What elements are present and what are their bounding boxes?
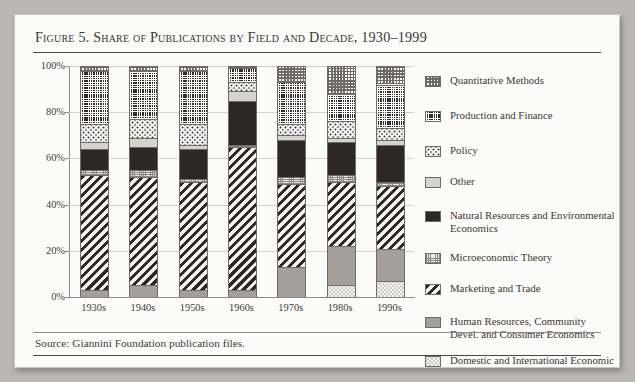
bar-segment[interactable] (278, 184, 305, 267)
bar-segment[interactable] (229, 101, 256, 145)
bar-segment[interactable] (130, 119, 157, 137)
bar-segment[interactable] (81, 170, 108, 175)
plot-region (69, 66, 414, 297)
bar-segment[interactable] (130, 138, 157, 147)
bar-1930s[interactable] (80, 66, 109, 297)
bar-segment[interactable] (130, 285, 157, 297)
bar-segment[interactable] (328, 285, 355, 297)
bar-segment[interactable] (81, 149, 108, 170)
y-axis-tick-mark (65, 158, 69, 159)
legend-label: Production and Finance (450, 109, 553, 122)
bar-segment[interactable] (328, 142, 355, 174)
bar-segment[interactable] (328, 94, 355, 122)
page-background: Figure 5. Share of Publications by Field… (0, 0, 635, 382)
legend-swatch-icon (425, 317, 441, 328)
bar-segment[interactable] (130, 147, 157, 170)
bar-segment[interactable] (81, 290, 108, 297)
bar-segment[interactable] (278, 82, 305, 124)
bar-segment[interactable] (180, 290, 207, 297)
bar-segment[interactable] (229, 68, 256, 82)
bar-segment[interactable] (229, 91, 256, 100)
bar-1950s[interactable] (179, 66, 208, 297)
bar-segment[interactable] (81, 142, 108, 149)
bar-segment[interactable] (81, 71, 108, 124)
bar-segment[interactable] (328, 175, 355, 182)
legend-item[interactable]: Production and Finance (425, 109, 615, 122)
bar-segment[interactable] (81, 175, 108, 291)
legend-item[interactable]: Other (425, 175, 615, 188)
source-divider (33, 332, 601, 333)
y-axis-tick-mark (65, 251, 69, 252)
bar-segment[interactable] (180, 66, 207, 71)
legend-label: Human Resources, Community Devel. and Co… (450, 315, 615, 340)
bar-1990s[interactable] (376, 66, 405, 297)
bar-segment[interactable] (328, 246, 355, 285)
legend-item[interactable]: Domestic and International Economic Deve… (425, 354, 615, 368)
y-axis-tick-label: 80% (19, 106, 65, 117)
y-axis-tick-label: 100% (19, 60, 65, 71)
bar-segment[interactable] (229, 145, 256, 147)
bar-segment[interactable] (377, 128, 404, 140)
bar-segment[interactable] (81, 66, 108, 71)
bar-segment[interactable] (180, 179, 207, 181)
bar-segment[interactable] (180, 71, 207, 124)
bar-segment[interactable] (229, 66, 256, 68)
bar-segment[interactable] (278, 267, 305, 297)
bar-segment[interactable] (278, 140, 305, 177)
bar-1980s[interactable] (327, 66, 356, 297)
legend-swatch-icon (425, 76, 441, 87)
bar-segment[interactable] (229, 147, 256, 290)
source-note: Source: Giannini Foundation publication … (35, 337, 245, 349)
legend-item[interactable]: Human Resources, Community Devel. and Co… (425, 315, 615, 340)
bar-segment[interactable] (130, 170, 157, 177)
bar-segment[interactable] (278, 177, 305, 184)
y-axis-tick-label: 0% (19, 291, 65, 302)
bar-segment[interactable] (278, 66, 305, 82)
bar-segment[interactable] (229, 290, 256, 297)
bar-segment[interactable] (278, 124, 305, 136)
bar-segment[interactable] (377, 145, 404, 182)
bar-segment[interactable] (130, 71, 157, 120)
legend-item[interactable]: Marketing and Trade (425, 282, 615, 295)
bar-segment[interactable] (278, 135, 305, 140)
bar-segment[interactable] (328, 121, 355, 137)
bar-segment[interactable] (377, 249, 404, 281)
bar-segment[interactable] (180, 145, 207, 150)
bar-segment[interactable] (130, 66, 157, 71)
y-axis-tick-mark (65, 205, 69, 206)
legend-label: Policy (450, 144, 478, 157)
bar-1960s[interactable] (228, 66, 257, 297)
y-axis-tick-label: 20% (19, 245, 65, 256)
legend-label: Microeconomic Theory (450, 251, 552, 264)
bar-segment[interactable] (377, 66, 404, 84)
legend-swatch-icon (425, 356, 441, 367)
legend-item[interactable]: Natural Resources and Environmental Econ… (425, 209, 615, 234)
bottom-divider (33, 355, 601, 356)
legend-item[interactable]: Microeconomic Theory (425, 251, 615, 264)
legend-label: Quantitative Methods (450, 74, 544, 87)
bar-1970s[interactable] (277, 66, 306, 297)
bar-segment[interactable] (377, 186, 404, 248)
bar-segment[interactable] (377, 182, 404, 187)
bar-segment[interactable] (229, 82, 256, 91)
x-axis-tick-label: 1940s (118, 302, 168, 313)
bar-segment[interactable] (180, 124, 207, 145)
legend-label: Marketing and Trade (450, 282, 541, 295)
bar-segment[interactable] (81, 124, 108, 142)
legend-swatch-icon (425, 146, 441, 157)
bar-segment[interactable] (180, 182, 207, 291)
bar-segment[interactable] (328, 66, 355, 94)
bar-segment[interactable] (377, 140, 404, 145)
legend-item[interactable]: Quantitative Methods (425, 74, 615, 87)
x-axis-tick-label: 1980s (315, 302, 365, 313)
bar-segment[interactable] (130, 177, 157, 286)
y-axis-tick-label: 40% (19, 199, 65, 210)
bar-segment[interactable] (377, 85, 404, 129)
bar-segment[interactable] (328, 138, 355, 143)
bar-1940s[interactable] (129, 66, 158, 297)
y-axis-tick-mark (65, 112, 69, 113)
bar-segment[interactable] (328, 182, 355, 247)
legend-item[interactable]: Policy (425, 144, 615, 157)
bar-segment[interactable] (377, 281, 404, 297)
bar-segment[interactable] (180, 149, 207, 179)
